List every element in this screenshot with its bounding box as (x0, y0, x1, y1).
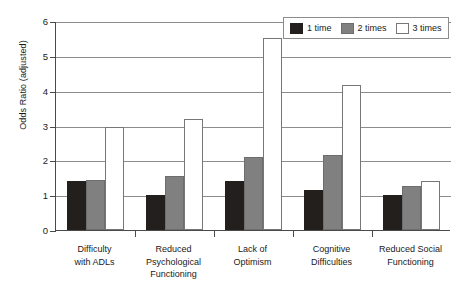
y-tick-label-1: 1 (32, 191, 48, 201)
bar (342, 85, 361, 230)
x-axis-label: Lack of Optimism (213, 243, 292, 268)
bar (323, 155, 342, 230)
x-tick (372, 231, 373, 237)
plot-area: 0123456 (55, 22, 450, 231)
legend-swatch (290, 23, 303, 34)
odds-ratio-bar-chart: Odds Ratio (adjusted) 0123456 Difficulty… (0, 0, 460, 291)
y-tick-label-5: 5 (32, 52, 48, 62)
legend-label: 2 times (358, 23, 387, 33)
y-tick-label-2: 2 (32, 156, 48, 166)
bar (225, 181, 244, 230)
legend-label: 3 times (413, 23, 442, 33)
bar (184, 119, 203, 230)
bar-group (383, 21, 440, 230)
legend-item: 3 times (396, 23, 442, 34)
bar (146, 195, 165, 230)
bar (244, 157, 263, 230)
y-tick-label-3: 3 (32, 122, 48, 132)
x-tick (135, 231, 136, 237)
bar-group (304, 21, 361, 230)
bar (383, 195, 402, 230)
legend-label: 1 time (307, 23, 332, 33)
bar (165, 176, 184, 230)
bar-group (67, 21, 124, 230)
y-tick-0 (50, 231, 56, 232)
x-tick (214, 231, 215, 237)
legend-swatch (396, 23, 409, 34)
chart-legend: 1 time2 times3 times (283, 17, 449, 39)
y-tick-6 (50, 22, 56, 23)
x-axis-label: Cognitive Difficulties (292, 243, 371, 268)
bar-group (225, 21, 282, 230)
bar (402, 186, 421, 230)
y-axis-title: Odds Ratio (adjusted) (18, 10, 28, 160)
y-tick-5 (50, 57, 56, 58)
x-tick (293, 231, 294, 237)
y-tick-2 (50, 161, 56, 162)
y-tick-4 (50, 92, 56, 93)
bar (67, 181, 86, 230)
x-axis-label: Difficulty with ADLs (55, 243, 134, 268)
bar (304, 190, 323, 230)
x-axis-label: Reduced Social Functioning (371, 243, 450, 268)
x-axis-label: Reduced Psychological Functioning (134, 243, 213, 281)
bar-group (146, 21, 203, 230)
bar (263, 38, 282, 230)
bar (105, 127, 124, 230)
y-tick-3 (50, 127, 56, 128)
y-tick-label-6: 6 (32, 17, 48, 27)
y-tick-label-0: 0 (32, 226, 48, 236)
legend-swatch (341, 23, 354, 34)
y-tick-label-4: 4 (32, 87, 48, 97)
legend-item: 2 times (341, 23, 387, 34)
legend-item: 1 time (290, 23, 332, 34)
bar (86, 180, 105, 231)
bar (421, 181, 440, 230)
y-tick-1 (50, 196, 56, 197)
